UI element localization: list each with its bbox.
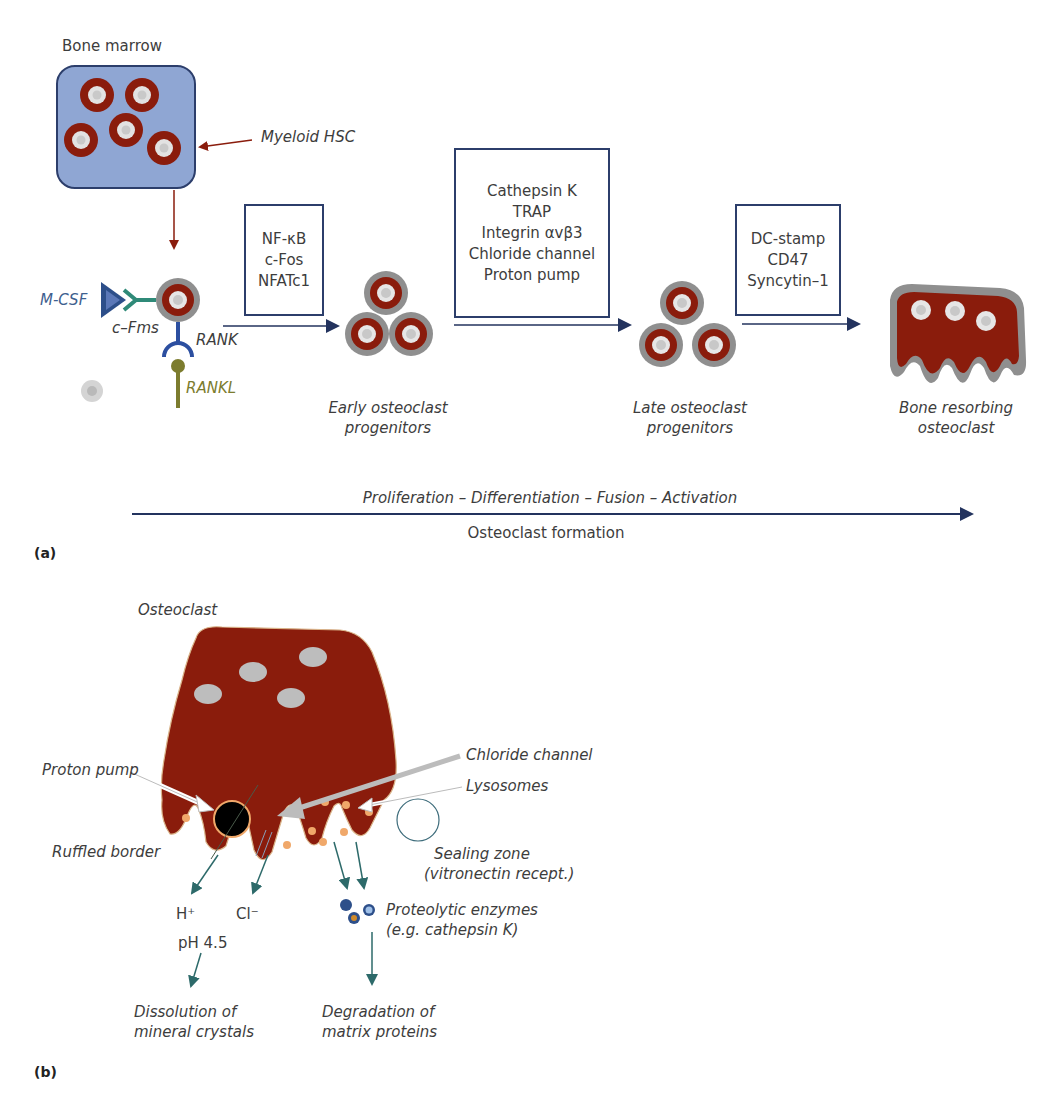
enzyme-cluster-icon [340, 899, 375, 924]
box2-line: TRAP [513, 202, 551, 223]
dissolution-line: Dissolution of [134, 1002, 254, 1022]
chloride-channel-label: Chloride channel [466, 745, 593, 765]
fusion-marker-box: DC-stamp CD47 Syncytin–1 [735, 204, 841, 316]
degradation-label: Degradation of matrix proteins [322, 1002, 437, 1042]
lysosomes-label: Lysosomes [466, 776, 548, 796]
precursor-cell [156, 278, 200, 322]
stage-label-line: progenitors [318, 418, 458, 438]
box2-line: Chloride channel [469, 244, 596, 265]
box1-line: c-Fos [265, 250, 304, 271]
box2-line: Integrin αvβ3 [481, 223, 582, 244]
rankl-label: RANKL [186, 378, 236, 398]
proton-pump-label: Proton pump [42, 760, 139, 780]
early-progenitors-label: Early osteoclast progenitors [318, 398, 458, 438]
box3-line: DC-stamp [751, 229, 825, 250]
faint-cell-icon [81, 380, 103, 402]
late-progenitors-label: Late osteoclast progenitors [620, 398, 760, 438]
teal-arrows [191, 842, 372, 986]
box2-line: Proton pump [484, 265, 580, 286]
myeloid-hsc-arrow [200, 140, 252, 147]
ph-label: pH 4.5 [178, 933, 227, 953]
box3-line: CD47 [767, 250, 808, 271]
box1-line: NFATc1 [258, 271, 310, 292]
degradation-line: matrix proteins [322, 1022, 437, 1042]
sealing-zone-icon [397, 799, 439, 841]
rank-receptor-icon [164, 322, 192, 357]
osteoclast-title: Osteoclast [138, 600, 217, 620]
rank-label: RANK [196, 330, 238, 350]
sealing-zone-line: (vitronectin recept.) [424, 864, 574, 884]
mcsf-label: M-CSF [40, 290, 87, 310]
bone-resorbing-osteoclast [890, 284, 1026, 383]
differentiation-marker-box: Cathepsin K TRAP Integrin αvβ3 Chloride … [454, 148, 610, 318]
panel-a-label: (a) [34, 545, 56, 561]
stage-label-line: osteoclast [884, 418, 1028, 438]
panel-b-label: (b) [34, 1064, 57, 1080]
ruffled-border-label: Ruffled border [52, 842, 160, 862]
dissolution-line: mineral crystals [134, 1022, 254, 1042]
proteolytic-line: Proteolytic enzymes [386, 900, 538, 920]
rankl-ligand-icon [171, 359, 185, 408]
degradation-line: Degradation of [322, 1002, 437, 1022]
large-osteoclast [161, 627, 396, 860]
early-progenitor-cells [345, 271, 433, 356]
late-progenitor-cells [639, 281, 736, 367]
myeloid-hsc-label: Myeloid HSC [261, 127, 355, 147]
proteolytic-line: (e.g. cathepsin K) [386, 920, 538, 940]
dissolution-label: Dissolution of mineral crystals [134, 1002, 254, 1042]
stage-label-line: Bone resorbing [884, 398, 1028, 418]
timeline-bottom-label: Osteoclast formation [396, 523, 696, 543]
stage-label-line: Late osteoclast [620, 398, 760, 418]
bone-marrow-title: Bone marrow [62, 36, 162, 56]
stage-label-line: progenitors [620, 418, 760, 438]
sealing-zone-label: Sealing zone (vitronectin recept.) [424, 844, 574, 884]
stage-label-line: Early osteoclast [318, 398, 458, 418]
h-plus-label: H⁺ [176, 904, 195, 924]
proteolytic-enzymes-label: Proteolytic enzymes (e.g. cathepsin K) [386, 900, 538, 940]
timeline-top-label: Proliferation – Differentiation – Fusion… [300, 488, 800, 508]
cfms-label: c–Fms [112, 318, 159, 338]
bone-marrow-box [57, 66, 195, 188]
sealing-zone-line: Sealing zone [424, 844, 574, 864]
cl-minus-label: Cl⁻ [236, 904, 259, 924]
cfms-receptor-icon [124, 290, 156, 310]
box3-line: Syncytin–1 [747, 271, 829, 292]
bone-resorbing-label: Bone resorbing osteoclast [884, 398, 1028, 438]
transcription-factor-box: NF-κB c-Fos NFATc1 [244, 204, 324, 316]
mcsf-ligand-icon [101, 282, 126, 318]
box2-line: Cathepsin K [487, 181, 577, 202]
box1-line: NF-κB [262, 229, 306, 250]
